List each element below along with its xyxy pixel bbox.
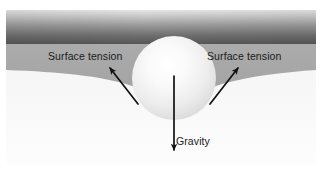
physics-diagram-surface-tension: Surface tension Surface tension Gravity [0, 0, 324, 169]
surface-tension-label-right: Surface tension [207, 51, 281, 62]
diagram-canvas [0, 0, 324, 169]
gravity-label: Gravity [176, 136, 210, 147]
surface-tension-label-left: Surface tension [48, 51, 122, 62]
